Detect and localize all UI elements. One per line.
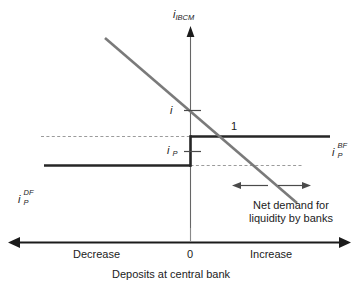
y-axis-arrowhead bbox=[187, 26, 195, 37]
deposit-facility-label: iPDF bbox=[18, 193, 42, 213]
net-demand-arrows bbox=[232, 182, 311, 189]
x-tick-zero: 0 bbox=[187, 248, 193, 261]
df-sup: DF bbox=[24, 189, 34, 198]
x-tick-decrease: Decrease bbox=[73, 248, 120, 261]
rate-i-label: i bbox=[170, 104, 172, 117]
bf-sub: P bbox=[338, 152, 343, 161]
rate-ip-base: i bbox=[167, 144, 169, 156]
borrowing-facility-label: iPBF bbox=[332, 146, 356, 166]
net-demand-annotation-line1: Net demand for bbox=[229, 199, 353, 212]
df-sub: P bbox=[24, 199, 29, 208]
chart-figure: iIBCM i iP 1 iPBF iPDF Net demand for li… bbox=[0, 0, 359, 288]
x-axis-arrowhead-right bbox=[339, 237, 351, 248]
rate-ip-label: iP bbox=[167, 144, 187, 160]
rate-ip-sub: P bbox=[173, 150, 178, 159]
x-tick-increase: Increase bbox=[250, 248, 292, 261]
y-axis-label: iIBCM bbox=[173, 8, 194, 23]
net-demand-line bbox=[105, 38, 297, 203]
bf-base: i bbox=[332, 146, 334, 158]
arrow-left-head bbox=[232, 182, 241, 189]
arrow-right-head bbox=[302, 182, 311, 189]
x-axis-title: Deposits at central bank bbox=[112, 268, 230, 281]
x-axis bbox=[8, 237, 351, 248]
equilibrium-label: 1 bbox=[231, 120, 237, 133]
net-demand-annotation: Net demand for liquidity by banks bbox=[229, 199, 353, 224]
x-axis-arrowhead-left bbox=[8, 237, 20, 248]
bf-sup: BF bbox=[338, 142, 348, 151]
y-axis bbox=[187, 26, 195, 243]
df-base: i bbox=[18, 193, 20, 205]
y-axis-label-sub: IBCM bbox=[175, 13, 194, 22]
net-demand-annotation-line2: liquidity by banks bbox=[229, 212, 353, 225]
